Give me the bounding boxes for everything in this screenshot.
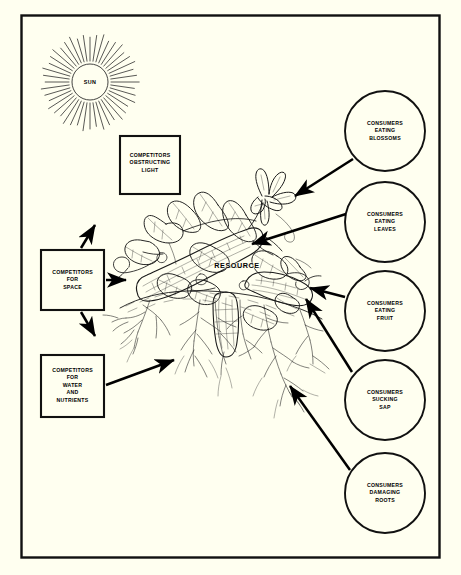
sun-icon <box>41 35 139 131</box>
circle-outlines <box>345 91 425 533</box>
arrow-fruit-to-plant <box>310 288 345 297</box>
plant-illustration <box>103 169 329 418</box>
figure-canvas: SUN COMPETITORS OBSTRUCTING LIGHT COMPET… <box>0 0 461 575</box>
box-competitors-for-space <box>41 250 104 310</box>
arrow-roots-to-plant <box>290 386 350 470</box>
arrow-space-up <box>81 225 95 248</box>
arrow-space-down <box>81 312 95 336</box>
arrow-blossoms-to-plant <box>295 159 353 196</box>
figure-border <box>22 16 440 558</box>
circle-consumers-sucking-sap <box>345 360 425 440</box>
circle-consumers-eating-fruit <box>345 271 425 351</box>
circle-consumers-eating-blossoms <box>345 91 425 171</box>
circle-consumers-damaging-roots <box>345 453 425 533</box>
arrow-water-to-plant <box>106 360 174 385</box>
box-competitors-for-water-and-nutrients <box>41 355 104 417</box>
box-outlines <box>41 136 180 417</box>
arrow-leaves-to-plant <box>252 214 346 244</box>
diagram-vector-layer <box>0 0 461 575</box>
box-competitors-obstructing-light <box>120 136 180 194</box>
circle-consumers-eating-leaves <box>345 182 425 262</box>
arrow-layer <box>81 159 353 470</box>
